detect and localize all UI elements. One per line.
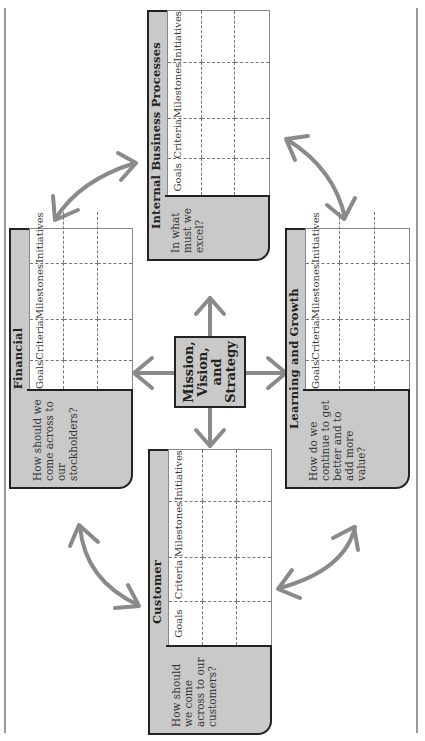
grid-cell[interactable]: [340, 360, 374, 389]
mission-vision-strategy-box: Mission, Vision, and Strategy: [174, 336, 246, 408]
arrow-to-learning: [246, 358, 286, 388]
col-header-initiatives: Initiatives: [30, 212, 64, 263]
grid-cell[interactable]: [203, 501, 237, 557]
scorecard-grid: Goals Criteria Milestones Initiatives: [167, 10, 270, 195]
center-line: Strategy: [224, 336, 238, 408]
arrow-to-ibp: [196, 298, 224, 336]
col-header-goals: Goals: [306, 360, 340, 389]
grid-cell[interactable]: [375, 360, 409, 389]
grid-cell[interactable]: [98, 212, 132, 263]
panel-title: Learning and Growth: [287, 228, 301, 489]
grid-cell[interactable]: [98, 319, 132, 360]
col-header-goals: Goals: [30, 360, 64, 389]
col-header-criteria: Criteria: [168, 118, 202, 159]
col-header-goals: Goals: [169, 601, 203, 645]
col-header-criteria: Criteria: [169, 557, 203, 601]
grid-cell[interactable]: [237, 450, 271, 501]
grid-cell[interactable]: [235, 11, 269, 62]
grid-cell[interactable]: [375, 263, 409, 319]
grid-cell[interactable]: [203, 450, 237, 501]
grid-cell[interactable]: [340, 212, 374, 263]
grid-cell[interactable]: [98, 360, 132, 389]
grid-cell[interactable]: [202, 62, 236, 118]
col-header-criteria: Criteria: [306, 319, 340, 360]
arrow-to-financial: [134, 358, 174, 388]
col-header-initiatives: Initiatives: [168, 11, 202, 62]
grid-cell[interactable]: [340, 319, 374, 360]
grid-cell[interactable]: [64, 360, 98, 389]
curved-arrow-financial-ibp: [53, 153, 136, 220]
scorecard-grid: Goals Criteria Milestones Initiatives: [29, 228, 133, 389]
grid-cell[interactable]: [235, 158, 269, 195]
arrow-to-customer: [196, 408, 224, 446]
curved-arrow-ibp-learning: [286, 136, 355, 219]
grid-cell[interactable]: [202, 158, 236, 195]
col-header-initiatives: Initiatives: [169, 450, 203, 501]
panel-question: How should we come across to our custome…: [166, 645, 272, 735]
grid-cell[interactable]: [237, 601, 271, 645]
panel-learning-and-growth: Learning and Growth How do we continue t…: [285, 228, 410, 489]
panel-question: How should we come across to our stockho…: [27, 389, 133, 489]
curved-arrow-financial-customer: [70, 525, 139, 608]
grid-cell[interactable]: [235, 62, 269, 118]
col-header-criteria: Criteria: [30, 319, 64, 360]
center-line: Mission,: [182, 336, 196, 408]
center-line: and: [210, 336, 224, 408]
panel-title: Internal Business Processes: [149, 10, 163, 261]
panel-financial: Financial How should we come across to o…: [9, 228, 133, 489]
col-header-milestones: Milestones: [168, 62, 202, 118]
curved-arrow-learning-customer: [278, 527, 358, 598]
panel-title: Financial: [11, 228, 25, 489]
grid-cell[interactable]: [202, 11, 236, 62]
panel-title: Customer: [150, 449, 164, 735]
grid-cell[interactable]: [64, 263, 98, 319]
col-header-initiatives: Initiatives: [306, 212, 340, 263]
scorecard-grid: Goals Criteria Milestones Initiatives: [168, 449, 272, 645]
panel-customer: Customer How should we come across to ou…: [148, 449, 272, 735]
grid-cell[interactable]: [237, 501, 271, 557]
grid-cell[interactable]: [64, 212, 98, 263]
panel-internal-business-processes: Internal Business Processes In what must…: [147, 10, 270, 261]
col-header-goals: Goals: [168, 158, 202, 195]
grid-cell[interactable]: [64, 319, 98, 360]
grid-cell[interactable]: [237, 557, 271, 601]
grid-cell[interactable]: [203, 557, 237, 601]
grid-cell[interactable]: [235, 118, 269, 159]
grid-cell[interactable]: [340, 263, 374, 319]
col-header-milestones: Milestones: [306, 263, 340, 319]
center-line: Vision,: [196, 336, 210, 408]
scorecard-grid: Goals Criteria Milestones Initiatives: [305, 228, 410, 389]
grid-cell[interactable]: [375, 212, 409, 263]
col-header-milestones: Milestones: [30, 263, 64, 319]
grid-cell[interactable]: [203, 601, 237, 645]
grid-cell[interactable]: [98, 263, 132, 319]
panel-question: In what must we excel?: [165, 195, 270, 261]
grid-cell[interactable]: [375, 319, 409, 360]
panel-question: How do we continue to get better and to …: [303, 389, 410, 489]
grid-cell[interactable]: [202, 118, 236, 159]
col-header-milestones: Milestones: [169, 501, 203, 557]
